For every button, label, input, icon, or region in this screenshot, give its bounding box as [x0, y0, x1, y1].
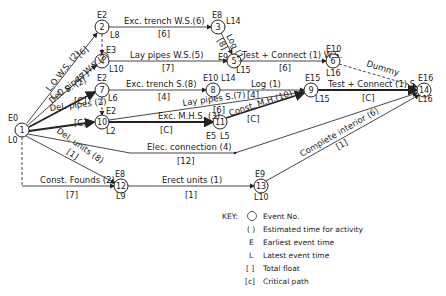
svg-text:E2: E2 [97, 11, 107, 20]
svg-text:L6: L6 [108, 94, 118, 103]
svg-text:[4]: [4] [158, 92, 170, 102]
svg-text:Del. units (8): Del. units (8) [55, 125, 106, 165]
svg-text:[ ]: [ ] [246, 264, 254, 273]
network-diagram: 1E0L0 2E2L8 4E3L10 7E2L6 10E2L2 3E8L14 5… [0, 0, 446, 296]
svg-text:Test + Connect (1) W.S.: Test + Connect (1) W.S. [241, 50, 342, 60]
svg-text:[C]: [C] [247, 114, 260, 124]
svg-text:Latest event time: Latest event time [263, 251, 330, 260]
svg-text:[7]: [7] [66, 190, 78, 200]
svg-text:L14: L14 [226, 17, 241, 26]
svg-text:E2: E2 [106, 107, 116, 116]
svg-text:Erect units (1): Erect units (1) [162, 175, 222, 185]
svg-text:[1]: [1] [185, 190, 197, 200]
svg-text:3: 3 [215, 23, 220, 32]
svg-text:Elec. connection (4): Elec. connection (4) [147, 142, 232, 152]
svg-text:12: 12 [116, 182, 126, 191]
svg-text:E16: E16 [418, 74, 433, 83]
event-node-12: 12E8L9 [114, 170, 128, 201]
svg-text:[C]: [C] [362, 93, 375, 103]
svg-text:9: 9 [308, 86, 313, 95]
svg-text:E15: E15 [305, 74, 320, 83]
svg-text:2: 2 [99, 23, 104, 32]
svg-text:L2: L2 [106, 127, 116, 136]
svg-text:Test + Connect (1) S.: Test + Connect (1) S. [327, 79, 418, 89]
activity-labels: L.O.W.S. (2) [6] Del. pipes W.S.(3) [7] … [40, 16, 418, 200]
svg-text:[C]: [C] [160, 125, 173, 135]
svg-text:E9: E9 [218, 53, 228, 62]
svg-text:E5: E5 [206, 132, 216, 141]
svg-text:Event No.: Event No. [263, 212, 299, 221]
svg-text:[7]: [7] [162, 63, 174, 73]
svg-text:L0: L0 [8, 136, 18, 145]
svg-text:Critical path: Critical path [263, 277, 309, 286]
svg-text:L10: L10 [254, 193, 269, 202]
svg-text:KEY:: KEY: [222, 212, 238, 221]
svg-text:Exc. M.H.S. (3): Exc. M.H.S. (3) [158, 111, 220, 121]
svg-text:L16: L16 [326, 69, 341, 78]
svg-text:E0: E0 [8, 114, 18, 123]
svg-text:E8: E8 [115, 170, 125, 179]
svg-text:E2: E2 [97, 74, 107, 83]
svg-text:L9: L9 [116, 192, 126, 201]
svg-text:[6]: [6] [279, 63, 291, 73]
svg-text:L8: L8 [110, 31, 120, 40]
svg-text:[c]: [c] [245, 277, 255, 286]
svg-text:L: L [249, 251, 254, 260]
legend-key: KEY: Event No. ( ) Estimated time for ac… [222, 212, 364, 287]
svg-text:Const. Founds (2): Const. Founds (2) [40, 175, 115, 185]
event-node-13: 13E9L10 [254, 170, 269, 202]
svg-text:13: 13 [256, 182, 266, 191]
event-node-1: 1E0L0 [8, 114, 29, 145]
svg-text:10: 10 [97, 118, 107, 127]
svg-text:7: 7 [99, 86, 104, 95]
event-node-14: 14E16L16 [417, 74, 433, 104]
svg-text:E9: E9 [255, 170, 265, 179]
svg-text:L15: L15 [236, 66, 251, 75]
svg-text:14: 14 [419, 86, 429, 95]
event-circle-icon [248, 212, 257, 221]
svg-text:Dummy: Dummy [365, 58, 400, 77]
svg-text:E10: E10 [203, 74, 218, 83]
svg-text:E: E [249, 238, 254, 247]
svg-text:L14: L14 [221, 74, 236, 83]
svg-text:L5: L5 [220, 132, 230, 141]
svg-text:( ): ( ) [247, 225, 255, 234]
svg-text:Total float: Total float [262, 264, 300, 273]
svg-text:L15: L15 [315, 95, 330, 104]
event-node-9: 9E15L15 [304, 74, 330, 104]
svg-text:L16: L16 [418, 95, 433, 104]
svg-text:1: 1 [19, 126, 24, 135]
svg-text:E8: E8 [212, 11, 222, 20]
svg-text:L10: L10 [109, 65, 124, 74]
svg-text:[12]: [12] [177, 156, 194, 166]
svg-text:Earliest event time: Earliest event time [263, 238, 335, 247]
svg-text:[C]: [C] [74, 118, 87, 128]
event-node-2: 2E2L8 [95, 11, 120, 40]
event-node-3: 3E8L14 [211, 11, 241, 34]
svg-text:Exc. trench S.(8): Exc. trench S.(8) [126, 79, 197, 89]
svg-text:Log (1): Log (1) [251, 79, 281, 89]
svg-text:Lay pipes W.S.(5): Lay pipes W.S.(5) [130, 50, 203, 60]
svg-text:Exc. trench W.S.(6): Exc. trench W.S.(6) [124, 16, 205, 26]
svg-text:Estimated time for activity: Estimated time for activity [263, 225, 364, 234]
svg-text:[6]: [6] [158, 29, 170, 39]
